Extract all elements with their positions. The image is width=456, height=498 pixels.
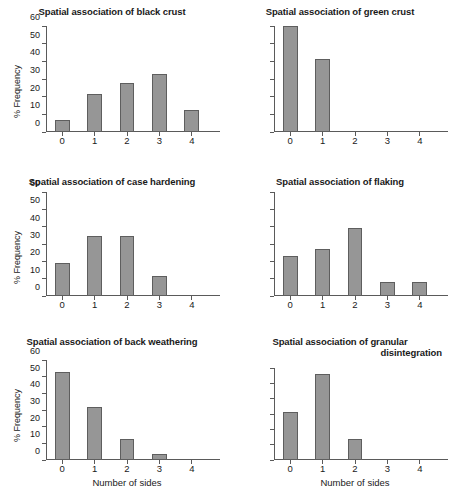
y-axis-tick (42, 43, 46, 44)
y-axis-tick (42, 96, 46, 97)
plot-area: 01234 (274, 192, 436, 296)
y-axis-tick-label: 40 (30, 380, 40, 389)
bar (380, 282, 395, 296)
y-axis-tick (270, 414, 274, 415)
x-axis-tick-label: 4 (189, 136, 194, 146)
chart-title-line2: disintegration (228, 347, 452, 358)
y-axis-tick (270, 368, 274, 369)
bar (87, 407, 102, 460)
chart-panel: Spatial association of back weathering01… (0, 330, 228, 498)
bar (55, 372, 70, 460)
bar (315, 59, 330, 132)
y-axis-tick-label: 50 (30, 30, 40, 39)
x-axis-tick-label: 4 (189, 300, 194, 310)
y-axis-tick (42, 132, 46, 133)
x-axis-tick-label: 1 (92, 136, 97, 146)
y-axis-tick (42, 296, 46, 297)
bar (412, 282, 427, 296)
y-axis-tick (270, 61, 274, 62)
x-axis-tick-label: 2 (124, 300, 129, 310)
y-axis-tick-label: 30 (30, 231, 40, 240)
y-axis-tick (270, 429, 274, 430)
bar (315, 374, 330, 460)
y-axis-tick-label: 20 (30, 83, 40, 92)
x-axis-tick-label: 1 (320, 464, 325, 474)
chart-title: Spatial association of granulardisintegr… (228, 336, 452, 358)
y-axis-tick (42, 360, 46, 361)
bar (283, 412, 298, 460)
y-axis-title: % Frequency (12, 65, 22, 118)
y-axis-tick-label: 0 (35, 447, 40, 456)
chart-panel: Spatial association of black crust010203… (0, 0, 228, 170)
x-axis-tick-label: 2 (352, 464, 357, 474)
bar (120, 439, 135, 460)
bar (152, 454, 167, 460)
y-axis-tick (270, 444, 274, 445)
plot-area: 010203040506001234 (46, 26, 208, 132)
y-axis-line (46, 360, 47, 460)
bar (152, 276, 167, 296)
plot-area: 010203040506001234 (46, 360, 208, 460)
bar (87, 236, 102, 296)
x-axis-tick-label: 0 (60, 464, 65, 474)
y-axis-tick (270, 26, 274, 27)
y-axis-title: % Frequency (12, 389, 22, 442)
y-axis-tick-label: 50 (30, 363, 40, 372)
y-axis-tick-label: 30 (30, 397, 40, 406)
x-axis-tick-label: 4 (189, 464, 194, 474)
y-axis-line (46, 26, 47, 132)
y-axis-tick-label: 50 (30, 196, 40, 205)
y-axis-tick (270, 261, 274, 262)
bar (152, 74, 167, 132)
y-axis-tick-label: 20 (30, 248, 40, 257)
x-axis-tick-label: 3 (385, 136, 390, 146)
y-axis-tick-label: 20 (30, 413, 40, 422)
x-axis-tick-label: 3 (385, 300, 390, 310)
bar (55, 120, 70, 132)
y-axis-tick-label: 60 (30, 347, 40, 356)
y-axis-tick-label: 60 (30, 179, 40, 188)
y-axis-tick (270, 114, 274, 115)
x-axis-tick-label: 3 (385, 464, 390, 474)
x-axis-tick-label: 0 (288, 300, 293, 310)
bar (120, 236, 135, 296)
y-axis-tick (42, 393, 46, 394)
chart-panel: Spatial association of flaking01234 (228, 170, 456, 330)
y-axis-tick-label: 30 (30, 66, 40, 75)
bar (184, 110, 199, 132)
y-axis-tick (270, 296, 274, 297)
y-axis-tick (270, 96, 274, 97)
y-axis-tick-label: 10 (30, 265, 40, 274)
y-axis-tick (270, 209, 274, 210)
bar (120, 83, 135, 132)
x-axis-tick-label: 0 (60, 136, 65, 146)
x-axis-tick-label: 4 (417, 464, 422, 474)
x-axis-tick-label: 2 (352, 300, 357, 310)
x-axis-tick-label: 3 (157, 136, 162, 146)
y-axis-tick (270, 79, 274, 80)
x-axis-title: Number of sides (274, 477, 436, 488)
chart-panel: Spatial association of green crust01234 (228, 0, 456, 170)
x-axis-tick-label: 2 (124, 136, 129, 146)
bar (87, 94, 102, 132)
chart-title: Spatial association of green crust (228, 6, 452, 17)
x-axis-tick-label: 0 (288, 136, 293, 146)
x-axis-tick-label: 3 (157, 300, 162, 310)
bar (348, 439, 363, 460)
y-axis-tick (270, 383, 274, 384)
x-axis-tick-label: 2 (124, 464, 129, 474)
x-axis-tick-label: 0 (60, 300, 65, 310)
x-axis-tick-label: 4 (417, 136, 422, 146)
y-axis-tick (42, 192, 46, 193)
y-axis-tick (270, 460, 274, 461)
x-axis-title: Number of sides (46, 477, 208, 488)
bar (348, 228, 363, 296)
y-axis-tick (270, 43, 274, 44)
y-axis-line (46, 192, 47, 296)
y-axis-tick (270, 132, 274, 133)
y-axis-tick (42, 209, 46, 210)
y-axis-tick (270, 398, 274, 399)
y-axis-tick (42, 410, 46, 411)
bar (283, 26, 298, 132)
y-axis-tick (42, 61, 46, 62)
